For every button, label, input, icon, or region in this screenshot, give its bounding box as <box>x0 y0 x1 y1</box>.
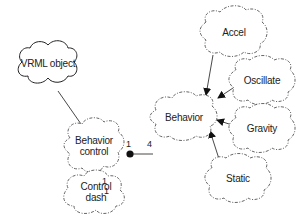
node-behavior: Behavior <box>165 112 203 123</box>
edge-accel-to-behavior <box>206 55 213 95</box>
node-gravity: Gravity <box>247 123 277 134</box>
multiplicity-bc-dash-to: 1 <box>104 187 109 196</box>
edge-oscillate-to-behavior <box>218 88 233 98</box>
node-vrml-object: VRML object <box>21 58 76 69</box>
node-accel: Accel <box>222 27 245 38</box>
class-diagram: VRML object Behavior control Control das… <box>0 0 307 221</box>
diagram-canvas <box>0 0 307 221</box>
multiplicity-bc-behavior-to: 4 <box>147 140 152 149</box>
node-behavior-control-line2: control <box>75 146 113 157</box>
node-static: Static <box>226 173 250 184</box>
aggregation-dot-behavior <box>126 150 133 157</box>
multiplicity-bc-behavior-from: 1 <box>126 140 131 149</box>
multiplicity-bc-dash-from: 1 <box>102 177 107 186</box>
edge-vrml-to-behavior-control <box>58 91 81 124</box>
node-behavior-control-line1: Behavior <box>75 135 113 146</box>
node-behavior-control: Behavior control <box>75 135 113 157</box>
node-oscillate: Oscillate <box>244 75 281 86</box>
